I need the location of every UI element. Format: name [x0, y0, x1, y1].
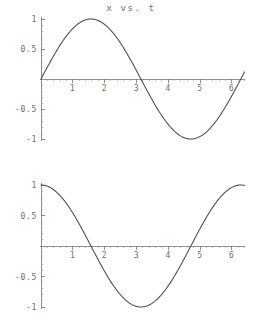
x-tick-label: 5	[197, 251, 203, 260]
x-tick-label: 5	[197, 84, 203, 93]
plot-xprime-vs-t: x' vs. t 12345610.5-0.5-1	[0, 165, 262, 329]
x-tick-label: 4	[165, 84, 171, 93]
y-tick-label: -0.5	[15, 105, 37, 114]
plot-x-vs-t: x vs. t 12345610.5-0.5-1	[0, 0, 262, 165]
x-tick-label: 6	[229, 251, 235, 260]
y-tick-label: -1	[26, 135, 37, 144]
y-tick-label: -0.5	[15, 273, 37, 282]
plot-svg-bottom: 12345610.5-0.5-1	[0, 165, 262, 329]
figure-canvas: x vs. t 12345610.5-0.5-1 x' vs. t 123456…	[0, 0, 262, 329]
x-tick-label: 1	[70, 84, 76, 93]
x-tick-label: 1	[70, 251, 76, 260]
x-tick-label: 3	[134, 84, 140, 93]
x-tick-label: 2	[102, 84, 108, 93]
y-tick-label: 1	[31, 181, 37, 190]
x-tick-label: 2	[102, 251, 108, 260]
y-tick-label: 1	[31, 15, 37, 24]
y-tick-label: 0.5	[20, 45, 37, 54]
y-tick-label: 0.5	[20, 212, 37, 221]
y-tick-label: -1	[26, 303, 37, 312]
plot-svg-top: 12345610.5-0.5-1	[0, 0, 262, 165]
plot-title-top: x vs. t	[0, 3, 262, 13]
x-tick-label: 3	[134, 251, 140, 260]
x-tick-label: 4	[165, 251, 171, 260]
